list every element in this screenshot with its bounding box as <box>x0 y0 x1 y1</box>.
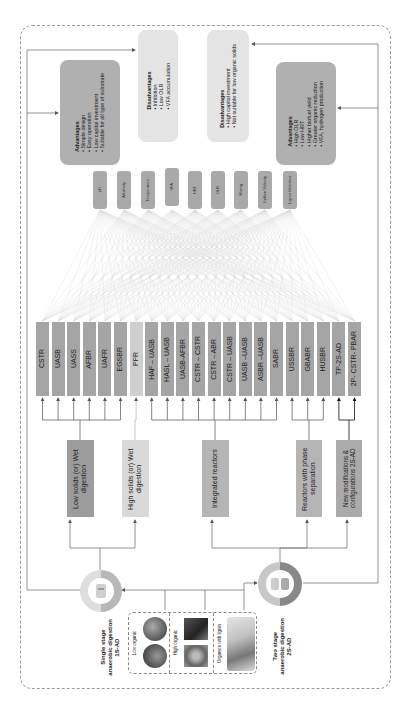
disadvantages-title: Disadvantages <box>146 71 152 109</box>
stage-label-line: 1S-AD <box>113 638 119 656</box>
reactor-box: USSBR <box>286 322 299 396</box>
category-integrated-reactors: Integrated reactors <box>202 440 229 517</box>
parameter-label: VFA <box>170 183 175 191</box>
reactor-box: CSTR – CSTR <box>192 322 205 396</box>
parameter-box: Upflow Velocity <box>258 171 272 209</box>
reactor-box: 2P- CSTR- PBAR <box>348 322 361 396</box>
category-label: High solids (or) Wet digestion <box>127 444 143 514</box>
reactor-label: CSTR – ABR <box>210 339 218 380</box>
reactor-box: ASBR –UASB <box>254 322 267 396</box>
stage-label-line: Two stage <box>272 632 278 661</box>
reactor-box: PFR <box>130 322 143 396</box>
disadvantage-item: Not suitable for low organic solids <box>231 44 237 124</box>
parameter-box: pH <box>93 171 107 209</box>
reactor-label: CSTR <box>38 349 46 368</box>
substrate-label: Low organic <box>132 631 137 655</box>
disadvantages-single-stage-box: Disadvantages • Inhibition • Low OLR • V… <box>138 30 178 142</box>
substrate-panel: Low organic High organic Organics with l… <box>128 612 257 674</box>
reactor-label: HUSBR <box>319 347 327 372</box>
reactor-box: CSTR <box>36 322 49 396</box>
high-organic-image <box>184 618 208 640</box>
reactor-label: UAFR <box>101 349 109 368</box>
low-organic-image <box>143 644 167 668</box>
reactor-box: UASB –UASB <box>239 322 252 396</box>
parameter-label: Temperature <box>146 179 151 201</box>
reactor-label: GBABR <box>304 347 312 372</box>
reactor-label: SABR <box>272 349 280 368</box>
parameter-label: Alkalinity <box>122 182 127 198</box>
reactor-box: AFBR <box>83 322 96 396</box>
reactor-label: USSBR <box>288 347 296 371</box>
substrate-label: High organic <box>173 630 178 655</box>
reactor-label: TP-2S-AD <box>335 343 343 375</box>
substrate-organics-lignin: Organics with lignin <box>215 619 225 669</box>
category-high-solids: High solids (or) Wet digestion <box>122 440 149 517</box>
high-organic-image <box>184 645 208 667</box>
reactor-box: HAF – UASB <box>145 322 158 396</box>
reactor-label: UASB <box>54 349 62 368</box>
reactor-box: SABR <box>270 322 283 396</box>
substrate-low-organic: Low organic <box>130 623 140 663</box>
reactor-box: HUSBR <box>317 322 330 396</box>
category-label: New modifications & configurations 2S-AD <box>342 441 356 516</box>
parameter-box: Mixing <box>234 171 248 209</box>
reactor-label: AFBR <box>85 350 93 369</box>
reactor-label: CSTR – UASB <box>226 336 234 382</box>
reactor-label: PFR <box>132 352 140 366</box>
disadvantage-item: High capital investment <box>225 69 231 125</box>
parameter-label: OLR <box>216 186 221 194</box>
category-label: Reactors with phase separation <box>301 443 317 515</box>
advantage-item: VFA, hydrogen production <box>318 81 324 143</box>
parameter-label: Mixing <box>239 184 244 196</box>
parameter-label: HRT <box>193 186 198 194</box>
two-stage-reactor-circle <box>258 562 302 606</box>
stage-label-line: anaerobic digestion <box>107 619 113 676</box>
parameter-label: Lignin Inhibition <box>288 176 293 204</box>
single-stage-reactor-circle <box>80 570 122 612</box>
two-stage-label: Two stage anaerobic digestion 2S-AD <box>267 610 297 682</box>
reactor-box: HASL – UASB <box>161 322 174 396</box>
category-new-modifications: New modifications & configurations 2S-AD <box>336 440 362 517</box>
two-stage-reactor-icon <box>266 570 294 598</box>
substrate-high-organic: High organic <box>171 623 181 663</box>
disadvantages-two-stage-box: Disadvantages • High capital investment … <box>207 30 249 142</box>
parameter-box: Temperature <box>141 171 155 209</box>
reactor-label: UASB-AFBR <box>179 339 187 379</box>
reactor-label: 2P- CSTR- PBAR <box>350 331 358 386</box>
parameter-box: VFA <box>165 168 179 206</box>
parameter-label: pH <box>98 187 103 192</box>
stage-label-line: Single stage <box>100 629 106 664</box>
reactor-box: CSTR – UASB <box>223 322 236 396</box>
category-phase-separation: Reactors with phase separation <box>296 440 322 517</box>
single-stage-label: Single stage anaerobic digestion 1S-AD <box>95 612 125 682</box>
substrate-label: Organics with lignin <box>217 624 222 663</box>
reactor-label: UASB –UASB <box>241 337 249 381</box>
advantage-item: Suitable for all type of substrate <box>99 73 105 149</box>
lignin-structure-image <box>227 617 255 671</box>
reactor-label: HAF – UASB <box>148 339 156 380</box>
reactor-box: CSTR – ABR <box>208 322 221 396</box>
reactor-box: GBABR <box>301 322 314 396</box>
category-label: Low solids (or) Wet digestion <box>72 444 88 514</box>
reactor-label: UASS <box>70 349 78 368</box>
disadvantage-item: Low OLR <box>158 83 164 105</box>
parameter-box: Alkalinity <box>117 171 131 209</box>
parameter-box: HRT <box>188 171 202 209</box>
disadvantage-item: Inhibition <box>152 84 158 106</box>
reactor-label: ASBR –UASB <box>257 337 265 381</box>
stage-label-line: 2S-AD <box>285 637 291 655</box>
category-label: Integrated reactors <box>211 449 219 509</box>
reactor-icon <box>88 578 114 604</box>
advantages-single-stage-box: Advantages • Simple design • Easy operat… <box>60 60 120 165</box>
reactor-label: EGSBR <box>116 347 124 372</box>
low-organic-image <box>143 617 167 641</box>
stage-label-line: anaerobic digestion <box>279 618 285 675</box>
disadvantages-title: Disadvantages <box>219 90 225 128</box>
parameter-label: Upflow Velocity <box>263 176 268 203</box>
reactor-box: UASB <box>52 322 65 396</box>
reactor-box: UASS <box>67 322 80 396</box>
disadvantage-item: VFA accumulation <box>164 63 170 106</box>
reactor-box: TP-2S-AD <box>332 322 345 396</box>
reactor-box: UASB-AFBR <box>176 322 189 396</box>
advantages-two-stage-box: Advantages • High OLR • Low HRT • Higher… <box>276 62 336 165</box>
